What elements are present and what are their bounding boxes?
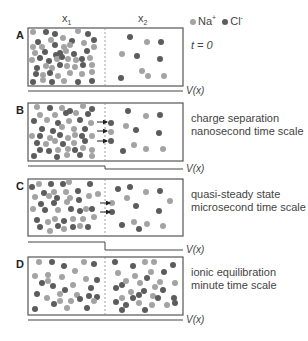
cl-ion xyxy=(34,217,40,223)
na-ion xyxy=(36,259,42,265)
potential-line xyxy=(28,242,183,250)
cl-ion xyxy=(80,62,86,68)
cl-ion xyxy=(39,280,45,286)
cl-ion xyxy=(127,34,133,40)
cl-ion xyxy=(115,186,121,192)
cl-ion xyxy=(54,195,60,201)
cl-ion xyxy=(75,188,81,194)
na-ion xyxy=(65,56,71,62)
cl-ion xyxy=(42,207,48,213)
na-ion xyxy=(123,123,129,129)
cl-ion xyxy=(51,200,57,206)
cl-ion xyxy=(46,148,52,154)
panel-caption: ionic equilibrationminute time scale xyxy=(191,266,277,292)
na-ion xyxy=(64,305,70,311)
cl-ion xyxy=(31,118,37,124)
panel-caption: charge separationnanosecond time scale xyxy=(191,112,304,138)
cl-ion xyxy=(144,275,150,281)
cl-ion xyxy=(89,206,95,212)
container-box xyxy=(28,179,183,236)
cl-ion xyxy=(136,292,142,298)
cl-ion xyxy=(77,117,83,123)
na-ion xyxy=(131,142,137,148)
cl-ion xyxy=(112,259,118,265)
cl-ion xyxy=(113,285,119,291)
cl-ion xyxy=(31,153,37,159)
na-ion xyxy=(89,153,95,159)
cl-ion xyxy=(119,222,125,228)
na-ion xyxy=(44,295,50,301)
cl-ion xyxy=(161,269,167,275)
cl-ion xyxy=(85,111,91,117)
cl-ion xyxy=(34,140,40,146)
cl-ion xyxy=(142,307,148,313)
vx-label: V(x) xyxy=(186,314,204,325)
cl-ion xyxy=(130,295,136,301)
na-ion xyxy=(59,274,65,280)
panel-d xyxy=(28,257,183,320)
cl-ion xyxy=(32,306,38,312)
na-ion xyxy=(164,302,170,308)
na-ion xyxy=(143,146,149,152)
cl-ion xyxy=(30,79,36,85)
na-ion xyxy=(128,289,134,295)
na-ion xyxy=(144,221,150,227)
na-ion xyxy=(89,69,95,75)
na-ion xyxy=(67,42,73,48)
na-ion xyxy=(132,273,138,279)
na-ion xyxy=(30,29,36,35)
cl-ion xyxy=(68,206,74,212)
na-ion xyxy=(64,63,70,69)
na-ion xyxy=(52,216,58,222)
cl-ion xyxy=(33,71,39,77)
na-ion xyxy=(89,147,95,153)
cl-label: Cl xyxy=(230,15,240,27)
cl-ion xyxy=(119,307,125,313)
cl-ion xyxy=(75,79,81,85)
cl-ion xyxy=(62,287,68,293)
na-ion xyxy=(70,282,76,288)
cl-ion xyxy=(50,283,56,289)
cl-ion xyxy=(37,147,43,153)
cl-ion xyxy=(157,188,163,194)
na-ion xyxy=(60,35,66,41)
cl-ion xyxy=(42,49,48,55)
panel-caption: t = 0 xyxy=(191,39,213,52)
na-ion xyxy=(73,57,79,63)
na-ion xyxy=(88,120,94,126)
na-ion xyxy=(52,138,58,144)
na-ion xyxy=(36,181,42,187)
na-ion xyxy=(45,278,51,284)
cl-ion xyxy=(49,259,55,265)
cl-ion xyxy=(59,54,65,60)
na-ion xyxy=(91,44,97,50)
na-ion xyxy=(52,112,58,118)
cl-ion xyxy=(86,293,92,299)
cl-ion xyxy=(108,120,114,126)
cl-ion xyxy=(125,108,131,114)
na-ion xyxy=(37,112,43,118)
na-ion xyxy=(81,259,87,265)
cl-ion xyxy=(133,203,139,209)
na-ion xyxy=(83,276,89,282)
na-ion xyxy=(142,259,148,265)
cl-ion xyxy=(41,190,47,196)
cl-ion xyxy=(43,29,49,35)
cl-ion xyxy=(85,224,91,230)
na-ion xyxy=(119,295,125,301)
cl-ion xyxy=(60,181,66,187)
panel-b xyxy=(28,103,183,169)
na-ion xyxy=(65,135,71,141)
cl-ion xyxy=(38,201,44,207)
potential-line xyxy=(28,166,183,169)
cl-ion xyxy=(141,288,147,294)
na-ion xyxy=(95,191,101,197)
na-ion xyxy=(48,37,54,43)
na-ion xyxy=(89,62,95,68)
panel-a xyxy=(28,28,183,91)
na-ion xyxy=(59,124,65,130)
cl-ion xyxy=(89,106,95,112)
cl-ion xyxy=(171,295,177,301)
na-ion xyxy=(144,39,150,45)
cl-ion xyxy=(61,263,67,269)
